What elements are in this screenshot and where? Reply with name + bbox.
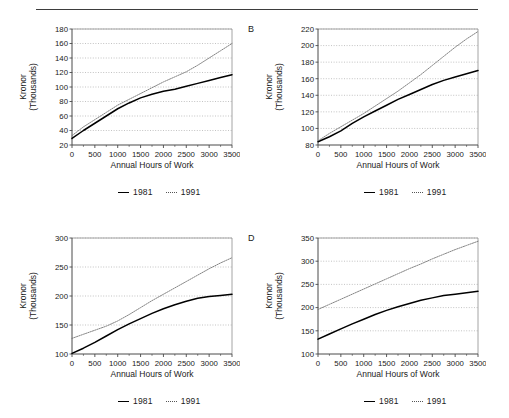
y-tick-label: 150 [55, 321, 69, 330]
y-tick-label: 250 [55, 263, 69, 272]
panel-d-letter: D [248, 233, 255, 243]
legend-label-1981: 1981 [133, 396, 153, 406]
panel-c: C 10015020025030005001000150020002500300… [0, 219, 254, 418]
y-tick-label: 100 [301, 124, 315, 133]
panel-d-y-axis-title-line1: Kronor [264, 283, 274, 309]
panel-c-svg: 1001502002503000500100015002000250030003… [44, 229, 240, 376]
y-tick-label: 100 [301, 350, 315, 359]
x-tick-label: 3000 [200, 150, 218, 159]
plot-area [318, 29, 478, 145]
panel-b-plot: 8010012014016018020022005001000150020002… [290, 20, 486, 167]
x-tick-label: 2500 [424, 150, 442, 159]
x-tick-label: 1500 [132, 359, 150, 368]
x-tick-label: 2500 [178, 359, 196, 368]
legend-label-1991: 1991 [181, 396, 201, 406]
x-tick-label: 0 [70, 359, 75, 368]
x-tick-label: 500 [334, 359, 348, 368]
legend-line-1981-icon [364, 401, 375, 402]
x-tick-label: 1500 [378, 359, 396, 368]
legend-line-1981-icon [118, 192, 129, 193]
x-tick-label: 3500 [469, 150, 486, 159]
y-tick-label: 20 [59, 141, 68, 150]
panel-c-x-axis-title: Annual Hours of Work [72, 369, 232, 379]
y-tick-label: 250 [301, 280, 315, 289]
legend-line-1991-icon [166, 401, 177, 402]
legend-line-1991-icon [412, 192, 423, 193]
x-tick-label: 3000 [446, 150, 464, 159]
x-tick-label: 2000 [155, 359, 173, 368]
panel-a-plot: 2040608010012014016018005001000150020002… [44, 20, 240, 167]
panel-b-y-axis-title-line1: Kronor [264, 74, 274, 100]
y-tick-label: 160 [301, 75, 315, 84]
x-tick-label: 1000 [355, 150, 373, 159]
legend-label-1981: 1981 [133, 187, 153, 197]
panel-a-y-axis-title-line1: Kronor [18, 74, 28, 100]
legend-line-1981-icon [118, 401, 129, 402]
panel-d-x-axis-title: Annual Hours of Work [318, 369, 478, 379]
legend-line-1981-icon [364, 192, 375, 193]
y-tick-label: 350 [301, 234, 315, 243]
panel-b-y-axis-title: Kronor (Thousands) [264, 29, 284, 145]
panel-b-letter: B [248, 24, 254, 34]
y-tick-label: 120 [55, 68, 69, 77]
x-tick-label: 500 [334, 150, 348, 159]
panel-c-legend: 1981 1991 [118, 396, 200, 406]
x-tick-label: 1500 [132, 150, 150, 159]
panel-a-y-axis-title-line2: (Thousands) [28, 29, 38, 145]
figure-page: A 20406080100120140160180050010001500200… [0, 0, 509, 418]
legend-label-1991: 1991 [427, 187, 447, 197]
panel-b-y-axis-title-line2: (Thousands) [274, 29, 284, 145]
panel-c-y-axis-title: Kronor (Thousands) [18, 238, 38, 354]
x-tick-label: 2000 [401, 150, 419, 159]
y-tick-label: 150 [301, 327, 315, 336]
panel-d: D 10015020025030035005001000150020002500… [246, 219, 500, 418]
panel-a-y-axis-title: Kronor (Thousands) [18, 29, 38, 145]
panel-b: B 80100120140160180200220050010001500200… [246, 10, 500, 219]
y-tick-label: 60 [59, 112, 68, 121]
plot-area [318, 238, 478, 354]
y-tick-label: 200 [301, 41, 315, 50]
panel-b-legend: 1981 1991 [364, 187, 446, 197]
legend-line-1991-icon [166, 192, 177, 193]
x-tick-label: 2000 [401, 359, 419, 368]
legend-label-1981: 1981 [379, 187, 399, 197]
y-tick-label: 220 [301, 25, 315, 34]
x-tick-label: 3500 [223, 359, 240, 368]
x-tick-label: 500 [88, 359, 102, 368]
panel-d-y-axis-title-line2: (Thousands) [274, 238, 284, 354]
x-tick-label: 1000 [109, 150, 127, 159]
panel-a-svg: 2040608010012014016018005001000150020002… [44, 20, 240, 167]
panel-b-svg: 8010012014016018020022005001000150020002… [290, 20, 486, 167]
y-tick-label: 120 [301, 108, 315, 117]
panel-a-legend: 1981 1991 [118, 187, 200, 197]
panel-d-y-axis-title: Kronor (Thousands) [264, 238, 284, 354]
y-tick-label: 200 [301, 303, 315, 312]
y-tick-label: 80 [305, 141, 314, 150]
legend-label-1981: 1981 [379, 396, 399, 406]
y-tick-label: 200 [55, 292, 69, 301]
x-tick-label: 3500 [223, 150, 240, 159]
x-tick-label: 3000 [446, 359, 464, 368]
x-tick-label: 500 [88, 150, 102, 159]
y-tick-label: 180 [301, 58, 315, 67]
panel-b-x-axis-title: Annual Hours of Work [318, 160, 478, 170]
panel-c-y-axis-title-line1: Kronor [18, 283, 28, 309]
x-tick-label: 2500 [424, 359, 442, 368]
y-tick-label: 140 [301, 91, 315, 100]
panel-a-x-axis-title: Annual Hours of Work [72, 160, 232, 170]
y-tick-label: 160 [55, 39, 69, 48]
x-tick-label: 0 [70, 150, 75, 159]
x-tick-label: 3000 [200, 359, 218, 368]
x-tick-label: 2500 [178, 150, 196, 159]
y-tick-label: 100 [55, 350, 69, 359]
y-tick-label: 300 [55, 234, 69, 243]
x-tick-label: 2000 [155, 150, 173, 159]
panel-d-svg: 1001502002503003500500100015002000250030… [290, 229, 486, 376]
y-tick-label: 80 [59, 97, 68, 106]
panel-d-plot: 1001502002503003500500100015002000250030… [290, 229, 486, 376]
x-tick-label: 0 [316, 150, 321, 159]
panel-d-legend: 1981 1991 [364, 396, 446, 406]
panel-c-plot: 1001502002503000500100015002000250030003… [44, 229, 240, 376]
y-tick-label: 40 [59, 126, 68, 135]
x-tick-label: 0 [316, 359, 321, 368]
